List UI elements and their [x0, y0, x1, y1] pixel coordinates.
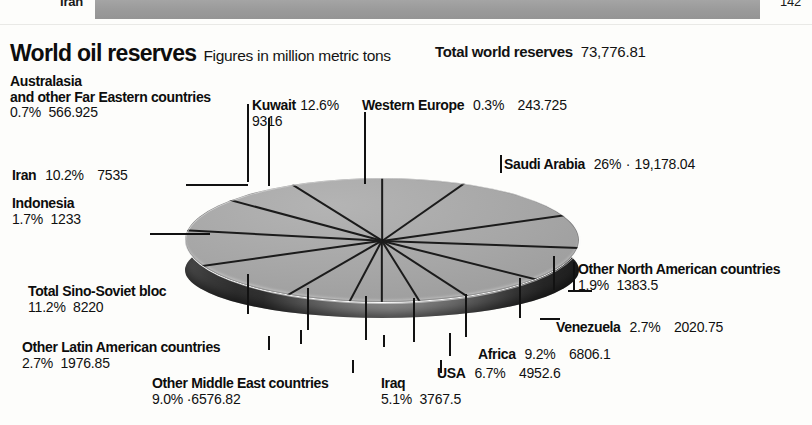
tick-sino [300, 330, 302, 344]
indonesia-value: 1233 [51, 211, 81, 227]
other-latin-value: 1976.85 [61, 355, 110, 371]
other-middle-east-name: Other Middle East countries [152, 376, 328, 392]
kuwait-value: 9316 [252, 114, 339, 130]
truncated-bar-value: 142 [780, 0, 801, 9]
leader-iran-horizontal [186, 184, 248, 186]
africa-name: Africa [478, 346, 516, 362]
other-latin-pct: 2.7% [22, 355, 53, 371]
title-subtitle: Figures in million metric tons [203, 47, 390, 64]
pie-separator-14 [212, 178, 383, 242]
wall-separator-b [307, 288, 309, 330]
callout-indonesia: Indonesia 1.7% 1233 [12, 196, 81, 227]
pie-separator-2 [382, 178, 547, 242]
leader-saudi-arabia-tick [500, 155, 502, 173]
other-latin-name: Other Latin American countries [22, 340, 220, 356]
pie-separator-12 [185, 230, 382, 242]
callout-other-north-american: Other North American countries 1.9% 1383… [578, 262, 780, 293]
callout-africa: Africa 9.2% 6806.1 [478, 345, 611, 363]
truncated-bar-row-label: Iran [60, 0, 83, 9]
iran-value: 7535 [97, 167, 127, 183]
indonesia-pct: 1.7% [12, 211, 43, 227]
venezuela-value: 2020.75 [674, 319, 723, 335]
australasia-value: 566.925 [49, 104, 98, 120]
usa-value: 4952.6 [519, 365, 561, 381]
pie-chart [185, 178, 579, 343]
saudi-arabia-sep: · [626, 156, 630, 172]
saudi-arabia-value: 19,178.04 [635, 156, 695, 172]
title-main: World oil reserves [10, 40, 196, 66]
sino-soviet-name: Total Sino-Soviet bloc [28, 284, 166, 300]
pie-separator-3 [382, 212, 579, 242]
africa-value: 6806.1 [569, 346, 611, 362]
total-label: Total world reserves [435, 43, 573, 60]
venezuela-name: Venezuela [556, 319, 621, 335]
kuwait-name: Kuwait [252, 97, 296, 113]
leader-western-europe-vertical [364, 112, 366, 184]
pie-separator-9 [287, 240, 382, 302]
callout-venezuela: Venezuela 2.7% 2020.75 [556, 318, 723, 336]
page-title: World oil reservesFigures in million met… [10, 40, 391, 67]
usa-pct: 6.7% [474, 365, 505, 381]
australasia-line2: and other Far Eastern countries [10, 90, 211, 106]
sino-soviet-pct: 11.2% [28, 299, 66, 315]
australasia-line1: Australasia [10, 74, 211, 90]
truncated-bar [95, 0, 760, 19]
wall-separator-d [413, 298, 415, 342]
callout-other-latin: Other Latin American countries 2.7% 1976… [22, 340, 220, 371]
western-europe-pct: 0.3% [473, 97, 504, 113]
callout-australasia: Australasia and other Far Eastern countr… [10, 74, 211, 121]
other-north-american-value: 1383.5 [617, 277, 659, 293]
pie-separator-11 [185, 240, 382, 270]
other-north-american-pct: 1.9% [578, 277, 609, 293]
leader-other-north-american-v [573, 262, 575, 292]
leader-indonesia-horizontal [150, 233, 210, 235]
wall-separator-c [365, 296, 367, 340]
sino-soviet-value: 8220 [73, 299, 103, 315]
pie-separator-4 [382, 240, 579, 249]
saudi-arabia-name: Saudi Arabia [504, 156, 585, 172]
leader-australasia-vertical [247, 104, 249, 182]
western-europe-value: 243.725 [518, 97, 567, 113]
iraq-value: 3767.5 [420, 391, 462, 407]
other-middle-east-value: 6576.82 [191, 391, 240, 407]
wall-separator-a [247, 274, 249, 314]
pie-separator-5 [382, 240, 576, 290]
callout-usa: USA 6.7% 4952.6 [437, 364, 561, 382]
usa-name: USA [437, 365, 466, 381]
wall-separator-e [465, 294, 467, 337]
indonesia-name: Indonesia [12, 196, 81, 212]
tick-africa-b [449, 333, 451, 345]
pie-separator-1 [381, 178, 383, 241]
venezuela-pct: 2.7% [629, 319, 660, 335]
strip-divider [0, 24, 812, 25]
saudi-arabia-pct: 26% [594, 156, 621, 172]
callout-western-europe: Western Europe 0.3% 243.725 [362, 96, 567, 114]
wall-separator-f [519, 278, 521, 318]
infographic-page: Iran 142 World oil reservesFigures in mi… [0, 0, 812, 425]
tick-usa [449, 345, 451, 356]
pie-separator-8 [381, 241, 383, 302]
tick-latin [268, 336, 270, 350]
truncated-bar-chart-strip: Iran 142 [0, 0, 812, 26]
callout-sino-soviet: Total Sino-Soviet bloc 11.2% 8220 [28, 284, 166, 315]
kuwait-pct: 12.6% [300, 97, 339, 113]
other-middle-east-pct: 9.0% [152, 391, 183, 407]
callout-saudi-arabia: Saudi Arabia 26% · 19,178.04 [504, 155, 695, 173]
callout-other-middle-east: Other Middle East countries 9.0% ·6576.8… [152, 376, 328, 407]
pie-separator-7 [381, 240, 488, 302]
pie-separator-13 [189, 188, 383, 241]
iran-pct: 10.2% [45, 167, 84, 183]
tick-africa-a [383, 335, 385, 347]
tick-other-middle-east [352, 360, 354, 373]
total-value: 73,776.81 [581, 43, 646, 60]
western-europe-name: Western Europe [362, 97, 464, 113]
total-world-reserves: Total world reserves73,776.81 [435, 43, 646, 61]
callout-kuwait: Kuwait 12.6% 9316 [252, 96, 339, 130]
africa-pct: 9.2% [524, 346, 555, 362]
other-north-american-name: Other North American countries [578, 262, 780, 278]
iraq-pct: 5.1% [381, 391, 412, 407]
iran-name: Iran [12, 167, 36, 183]
wall-separator-g [553, 256, 555, 290]
australasia-pct: 0.7% [10, 104, 41, 120]
callout-iran: Iran 10.2% 7535 [12, 166, 128, 184]
